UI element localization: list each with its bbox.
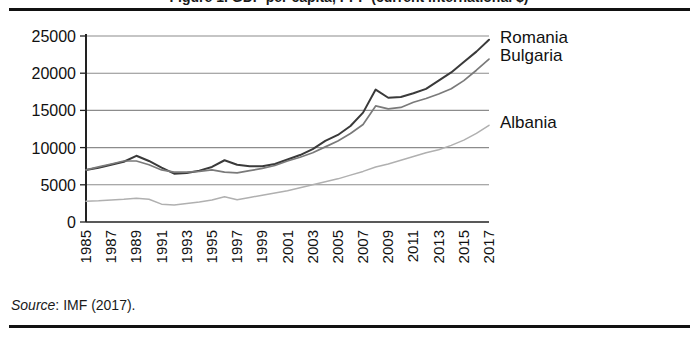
figure-container: Figure 1. GDP per capita, PPP (current i… xyxy=(0,0,698,347)
y-axis-tick-label: 20000 xyxy=(32,65,77,82)
figure-title-text: Figure 1. GDP per capita, PPP (current i… xyxy=(0,0,698,5)
y-axis-tick-label: 25000 xyxy=(32,28,77,45)
source-label: Source xyxy=(11,297,55,313)
x-axis-tick-label: 2005 xyxy=(329,230,346,263)
chart-plot-area: 0500010000150002000025000198519871989199… xyxy=(0,18,698,308)
x-axis-tick-label: 1999 xyxy=(253,230,270,263)
x-axis-tick-label: 1989 xyxy=(127,230,144,263)
x-axis-tick-label: 2013 xyxy=(430,230,447,263)
x-axis-tick-label: 2007 xyxy=(354,230,371,263)
y-axis-tick-label: 10000 xyxy=(32,140,77,157)
series-label-romania: Romania xyxy=(500,28,569,47)
series-label-albania: Albania xyxy=(500,113,557,132)
x-axis-labels: 1985198719891991199319951997199920012003… xyxy=(77,230,497,263)
series-label-bulgaria: Bulgaria xyxy=(500,46,563,65)
series-line-albania xyxy=(86,125,489,205)
series-labels-group: RomaniaBulgariaAlbania xyxy=(500,28,569,132)
x-axis-tick-label: 2003 xyxy=(304,230,321,263)
x-axis-tick-label: 2009 xyxy=(379,230,396,263)
x-axis-tick-label: 1991 xyxy=(153,230,170,263)
y-axis-tick-label: 15000 xyxy=(32,102,77,119)
x-axis-tick-label: 1995 xyxy=(203,230,220,263)
data-series-group xyxy=(86,40,489,205)
x-axis-tick-label: 1985 xyxy=(77,230,94,263)
y-axis-tick-label: 5000 xyxy=(40,177,76,194)
figure-title-partial: Figure 1. GDP per capita, PPP (current i… xyxy=(0,0,698,5)
rule-top xyxy=(9,8,690,11)
source-note: Source: IMF (2017). xyxy=(11,297,136,313)
rule-bottom xyxy=(9,325,690,328)
series-line-bulgaria xyxy=(86,59,489,173)
x-axis-tick-label: 2017 xyxy=(480,230,497,263)
series-line-romania xyxy=(86,40,489,174)
source-value: : IMF (2017). xyxy=(55,297,135,313)
x-axis-tick-label: 1993 xyxy=(178,230,195,263)
line-chart-svg: 0500010000150002000025000198519871989199… xyxy=(0,18,698,308)
x-axis-tick-label: 2015 xyxy=(455,230,472,263)
x-axis-tick-label: 1987 xyxy=(102,230,119,263)
x-axis-tick-label: 2011 xyxy=(404,230,421,262)
x-axis-tick-label: 2001 xyxy=(279,230,296,263)
x-axis-tick-label: 1997 xyxy=(228,230,245,263)
y-axis-tick-label: 0 xyxy=(67,214,76,231)
